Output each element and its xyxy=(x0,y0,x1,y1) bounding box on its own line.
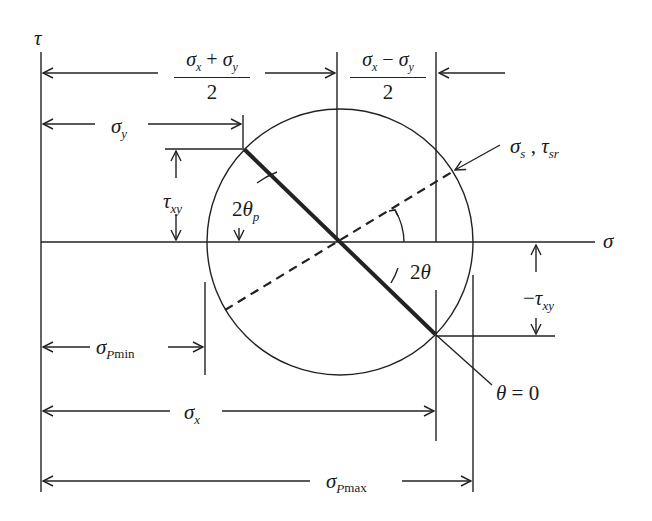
two-theta-arc-arrow xyxy=(389,210,398,216)
theta-zero-leader xyxy=(435,334,492,385)
sigma-s-tau-sr-label: σs , τsr xyxy=(510,136,559,160)
mohr-circle-diagram xyxy=(0,0,652,521)
two-theta-label: 2θ xyxy=(410,262,431,283)
two-theta-lower-arc xyxy=(391,268,398,283)
sigma-axis-label: σ xyxy=(603,231,613,252)
theta-zero-label: θ = 0 xyxy=(496,383,539,404)
half-difference-label: σx − σy 2 xyxy=(350,48,426,105)
sigma-y-label: σy xyxy=(111,116,127,140)
tau-axis-label: τ xyxy=(34,28,42,49)
sigma-x-label: σx xyxy=(184,402,200,426)
two-theta-p-label: 2θp xyxy=(232,199,259,223)
mean-stress-label: σx + σy 2 xyxy=(174,48,250,105)
tau-xy-label: τxy xyxy=(163,191,182,215)
sigma-pmin-label: σPmin xyxy=(96,337,135,361)
sigma-pmax-label: σPmax xyxy=(326,471,367,495)
sigma-s-leader-arrow xyxy=(455,145,500,170)
two-theta-arc xyxy=(395,210,404,242)
neg-tau-xy-label: −τxy xyxy=(523,288,554,312)
